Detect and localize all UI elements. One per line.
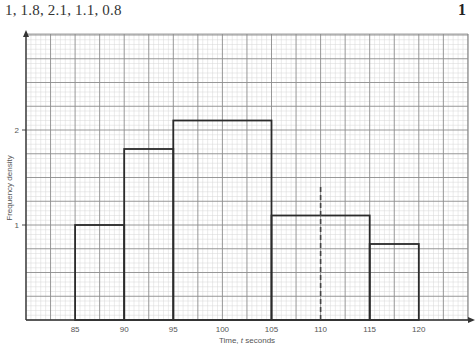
x-tick-label: 100 <box>216 325 230 334</box>
x-axis-label: Time, t seconds <box>219 336 275 345</box>
x-tick-label: 90 <box>120 325 129 334</box>
y-tick-label: 2 <box>15 126 20 135</box>
x-tick-label: 85 <box>71 325 80 334</box>
axis-labels: 85909510010511011512012Time, t secondsFr… <box>5 126 426 345</box>
axes <box>23 30 475 323</box>
y-axis-arrow-icon <box>23 30 29 37</box>
x-tick-label: 115 <box>363 325 376 334</box>
x-tick-label: 105 <box>265 325 279 334</box>
x-tick-label: 120 <box>412 325 426 334</box>
x-tick-label: 110 <box>314 325 327 334</box>
y-tick-label: 1 <box>15 221 20 230</box>
y-axis-label: Frequency density <box>5 155 14 220</box>
x-tick-label: 95 <box>169 325 178 334</box>
histogram-chart: 85909510010511011512012Time, t secondsFr… <box>0 0 476 348</box>
x-axis-arrow-icon <box>468 317 475 323</box>
